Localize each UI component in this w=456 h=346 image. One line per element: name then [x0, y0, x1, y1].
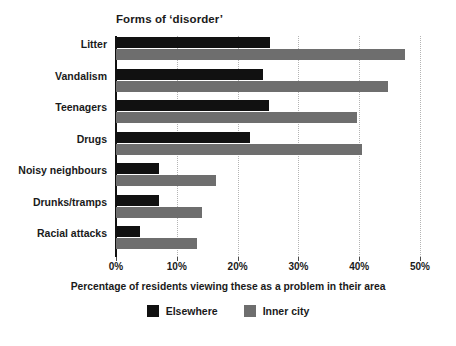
x-tick-label: 20%: [228, 261, 248, 272]
bar-inner-city: [116, 238, 197, 249]
bar-group: Drugs: [116, 131, 420, 163]
category-label: Racial attacks: [37, 227, 107, 239]
category-label: Drunks/tramps: [33, 196, 107, 208]
chart-legend: ElsewhereInner city: [0, 305, 456, 317]
x-axis-title: Percentage of residents viewing these as…: [0, 281, 456, 292]
bar-elsewhere: [116, 226, 140, 237]
x-tick-label: 10%: [167, 261, 187, 272]
bar-group: Noisy neighbours: [116, 162, 420, 194]
chart-title: Forms of ‘disorder’: [116, 13, 223, 25]
bar-inner-city: [116, 112, 357, 123]
bar-elsewhere: [116, 37, 270, 48]
bar-inner-city: [116, 207, 202, 218]
legend-swatch-icon: [244, 305, 256, 317]
bar-elsewhere: [116, 100, 269, 111]
category-label: Noisy neighbours: [18, 164, 107, 176]
legend-label: Elsewhere: [166, 305, 218, 317]
legend-item-inner-city[interactable]: Inner city: [244, 305, 310, 317]
category-label: Litter: [81, 38, 107, 50]
bar-elsewhere: [116, 69, 263, 80]
x-tick-label: 50%: [410, 261, 430, 272]
bar-inner-city: [116, 175, 216, 186]
bar-chart: Forms of ‘disorder’ LitterVandalismTeena…: [0, 0, 456, 346]
bar-group: Litter: [116, 36, 420, 68]
gridline-50%: [420, 36, 421, 257]
bar-group: Racial attacks: [116, 225, 420, 257]
bar-elsewhere: [116, 195, 159, 206]
bar-elsewhere: [116, 163, 159, 174]
category-label: Drugs: [77, 133, 107, 145]
bar-elsewhere: [116, 132, 250, 143]
bar-inner-city: [116, 144, 362, 155]
legend-label: Inner city: [263, 305, 310, 317]
x-tick-label: 40%: [349, 261, 369, 272]
x-tick-label: 0%: [109, 261, 123, 272]
plot-area: LitterVandalismTeenagersDrugsNoisy neigh…: [116, 36, 420, 257]
bar-inner-city: [116, 49, 405, 60]
legend-swatch-icon: [147, 305, 159, 317]
category-label: Vandalism: [55, 70, 107, 82]
bar-group: Vandalism: [116, 68, 420, 100]
bar-group: Teenagers: [116, 99, 420, 131]
legend-item-elsewhere[interactable]: Elsewhere: [147, 305, 218, 317]
x-tick-label: 30%: [288, 261, 308, 272]
bar-group: Drunks/tramps: [116, 194, 420, 226]
bar-inner-city: [116, 81, 388, 92]
category-label: Teenagers: [55, 101, 107, 113]
